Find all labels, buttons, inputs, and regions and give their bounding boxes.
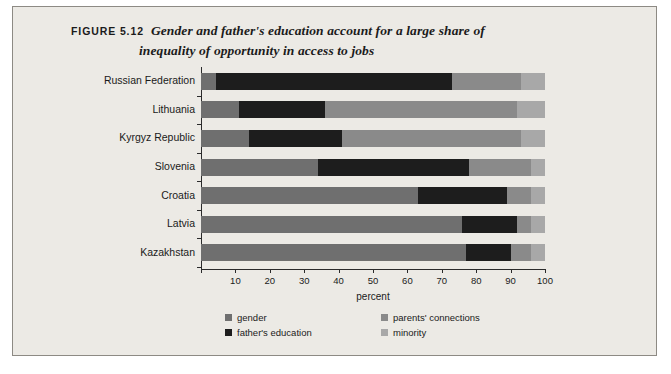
y-axis-tick <box>197 153 201 154</box>
bar-segment <box>466 244 511 261</box>
y-axis-label: Lithuania <box>25 103 195 115</box>
bar-segment <box>201 216 462 233</box>
legend-label: minority <box>393 327 426 338</box>
bar-segment <box>201 101 239 118</box>
x-axis-tick <box>407 269 408 273</box>
bars-region <box>201 67 545 267</box>
bar-segment <box>201 159 318 176</box>
y-axis-label: Kazakhstan <box>25 246 195 258</box>
x-axis-tick-label: 90 <box>505 275 516 286</box>
bar-segment <box>201 130 249 147</box>
legend-item: minority <box>381 327 426 338</box>
bar-segment <box>201 73 216 90</box>
bar-segment <box>462 216 517 233</box>
bar-segment <box>517 101 545 118</box>
x-axis-tick <box>545 269 546 273</box>
x-axis-tick <box>201 269 202 273</box>
bar-segment <box>216 73 452 90</box>
y-axis-labels: Russian FederationLithuaniaKyrgyz Republ… <box>19 67 195 267</box>
y-axis-label: Russian Federation <box>25 74 195 86</box>
legend-swatch-icon <box>381 329 388 336</box>
y-axis-tick <box>197 124 201 125</box>
bar-segment <box>517 216 531 233</box>
x-axis-tick-label: 70 <box>437 275 448 286</box>
legend-label: gender <box>237 312 267 323</box>
bar-segment <box>418 187 507 204</box>
x-axis-tick-label: 100 <box>537 275 553 286</box>
bar-segment <box>531 244 545 261</box>
bar-segment <box>318 159 469 176</box>
bar-row <box>201 187 545 204</box>
x-axis-tick <box>511 269 512 273</box>
legend-item: father's education <box>225 327 312 338</box>
x-axis-tick <box>442 269 443 273</box>
bar-row <box>201 244 545 261</box>
y-axis-tick <box>197 181 201 182</box>
legend-item: parents' connections <box>381 312 480 323</box>
legend-label: parents' connections <box>393 312 480 323</box>
x-axis-tick <box>339 269 340 273</box>
bar-row <box>201 130 545 147</box>
y-axis-tick <box>197 238 201 239</box>
bar-segment <box>469 159 531 176</box>
bar-segment <box>511 244 532 261</box>
bar-row <box>201 73 545 90</box>
x-axis-tick-label: 10 <box>230 275 241 286</box>
x-axis-tick-label: 30 <box>299 275 310 286</box>
y-axis-tick <box>197 210 201 211</box>
bar-row <box>201 216 545 233</box>
x-axis-tick <box>270 269 271 273</box>
legend-swatch-icon <box>225 329 232 336</box>
legend-swatch-icon <box>381 314 388 321</box>
x-axis-tick-label: 20 <box>265 275 276 286</box>
chart-plot-area: Russian FederationLithuaniaKyrgyz Republ… <box>13 7 658 357</box>
x-axis-tick <box>373 269 374 273</box>
figure-panel: FIGURE 5.12Gender and father's education… <box>12 6 657 356</box>
x-axis-tick <box>235 269 236 273</box>
bar-segment <box>507 187 531 204</box>
bar-segment <box>201 187 418 204</box>
bar-row <box>201 101 545 118</box>
bar-segment <box>239 101 325 118</box>
bar-segment <box>521 130 545 147</box>
y-axis-label: Croatia <box>25 189 195 201</box>
x-axis-tick-label: 80 <box>471 275 482 286</box>
bar-row <box>201 159 545 176</box>
x-axis-tick <box>304 269 305 273</box>
y-axis-tick <box>197 96 201 97</box>
x-axis-tick-label: 40 <box>333 275 344 286</box>
bar-segment <box>531 159 545 176</box>
y-axis-label: Kyrgyz Republic <box>25 131 195 143</box>
bar-segment <box>201 244 466 261</box>
legend-label: father's education <box>237 327 312 338</box>
bar-segment <box>325 101 518 118</box>
x-axis-title: percent <box>201 291 545 302</box>
bar-segment <box>531 187 545 204</box>
y-axis-label: Latvia <box>25 217 195 229</box>
bar-segment <box>249 130 342 147</box>
legend-swatch-icon <box>225 314 232 321</box>
legend-item: gender <box>225 312 267 323</box>
y-axis-tick <box>197 267 201 268</box>
x-axis-tick <box>476 269 477 273</box>
bar-segment <box>531 216 545 233</box>
bar-segment <box>342 130 521 147</box>
bar-segment <box>452 73 521 90</box>
x-axis-tick-label: 50 <box>368 275 379 286</box>
x-axis-tick-label: 60 <box>402 275 413 286</box>
y-axis-label: Slovenia <box>25 160 195 172</box>
bar-segment <box>521 73 545 90</box>
